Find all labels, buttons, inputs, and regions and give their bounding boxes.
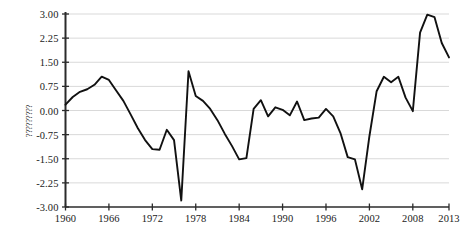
data-series-line (66, 15, 450, 201)
gridlines (66, 14, 450, 207)
y-tick-label: -3.00 (0, 202, 59, 213)
chart-canvas (0, 0, 467, 243)
y-tick-label: -2.25 (0, 177, 59, 188)
y-axis-label: ????????? (22, 88, 36, 154)
x-tick-label: 1978 (185, 213, 206, 224)
x-tick-label: 1990 (272, 213, 293, 224)
x-tick-label: 2002 (359, 213, 380, 224)
y-tick-label: 1.50 (0, 57, 59, 68)
x-tick-label: 1960 (55, 213, 76, 224)
y-axis-label-text: ????????? (24, 105, 34, 137)
x-tick-label: 2008 (402, 213, 423, 224)
x-tick-label: 1972 (142, 213, 163, 224)
y-tick-label: 3.00 (0, 9, 59, 20)
x-tick-label: 1996 (315, 213, 336, 224)
x-tick-label: 1984 (228, 213, 249, 224)
y-tick-label: -1.50 (0, 153, 59, 164)
line-chart: 3.002.251.500.750.00-0.75-1.50-2.25-3.00… (0, 0, 467, 243)
x-tick-label: 1966 (98, 213, 119, 224)
y-tick-label: 2.25 (0, 33, 59, 44)
x-tick-label: 2013 (438, 213, 459, 224)
